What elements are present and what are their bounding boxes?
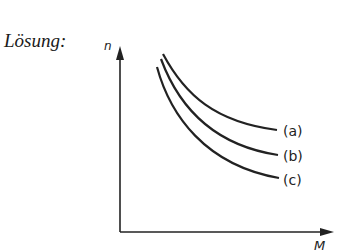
x-axis-arrow-icon: [320, 228, 334, 236]
x-axis-label: M: [314, 238, 325, 252]
curve-label-b: (b): [283, 148, 303, 164]
curve-c: [157, 67, 279, 178]
curve-label-c: (c): [283, 172, 302, 188]
y-axis-label: n: [104, 39, 112, 53]
y-axis-arrow-icon: [116, 46, 124, 60]
diagram: n M (a) (b) (c): [0, 0, 342, 252]
curve-b: [161, 59, 278, 155]
curve-label-a: (a): [283, 123, 303, 139]
